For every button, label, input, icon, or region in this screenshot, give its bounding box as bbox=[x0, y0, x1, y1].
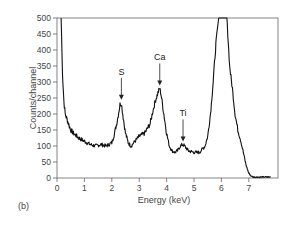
arrow-down-icon bbox=[157, 80, 162, 85]
y-tick-label: 250 bbox=[37, 93, 51, 103]
x-tick-label: 5 bbox=[192, 183, 197, 193]
peak-label: S bbox=[118, 67, 124, 77]
x-axis-title: Energy (keV) bbox=[138, 195, 191, 205]
x-tick-label: 6 bbox=[219, 183, 224, 193]
peak-label: Ca bbox=[154, 52, 166, 62]
y-tick-label: 0 bbox=[46, 173, 51, 183]
y-tick-label: 350 bbox=[37, 61, 51, 71]
y-tick-label: 500 bbox=[37, 13, 51, 23]
y-tick-label: 100 bbox=[37, 141, 51, 151]
y-tick-label: 450 bbox=[37, 29, 51, 39]
y-axis: 050100150200250300350400450500 bbox=[37, 13, 57, 183]
x-tick-label: 0 bbox=[55, 183, 60, 193]
plot-frame bbox=[57, 18, 278, 178]
peak-label: Ti bbox=[179, 108, 186, 118]
y-tick-label: 400 bbox=[37, 45, 51, 55]
x-tick-label: 1 bbox=[82, 183, 87, 193]
panel-label: (b) bbox=[18, 201, 29, 211]
x-tick-label: 3 bbox=[137, 183, 142, 193]
x-tick-label: 2 bbox=[109, 183, 114, 193]
x-axis: 01234567 bbox=[55, 178, 252, 193]
spectrum-line bbox=[61, 18, 271, 178]
y-tick-label: 300 bbox=[37, 77, 51, 87]
x-tick-label: 7 bbox=[246, 183, 251, 193]
spectrum-chart: 050100150200250300350400450500 01234567 … bbox=[0, 0, 291, 228]
peak-annotations: SCaTi bbox=[118, 52, 186, 141]
arrow-down-icon bbox=[119, 95, 124, 100]
x-tick-label: 4 bbox=[164, 183, 169, 193]
y-tick-label: 200 bbox=[37, 109, 51, 119]
y-tick-label: 50 bbox=[42, 157, 52, 167]
y-axis-title: Counts/channel bbox=[28, 67, 38, 130]
y-tick-label: 150 bbox=[37, 125, 51, 135]
arrow-down-icon bbox=[181, 136, 186, 141]
